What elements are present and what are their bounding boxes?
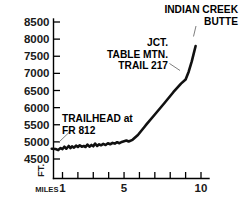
y-axis-unit-label: FT. — [35, 164, 46, 177]
annotation-trailhead-line-1: TRAILHEAD at — [62, 113, 133, 124]
y-tick-label-7000: 7000 — [24, 67, 50, 79]
x-axis-tick-labels: 1510 — [59, 182, 207, 194]
y-tick-label-6000: 6000 — [24, 102, 50, 114]
annotation-trailhead-line-2: FR 812 — [62, 125, 96, 136]
y-axis-tick-labels: 450050005500600065007000750080008500 — [24, 16, 50, 165]
y-tick-label-8000: 8000 — [24, 33, 50, 45]
x-axis-ticks — [63, 172, 202, 179]
annotation-junction: JCT.TABLE MTN.TRAIL 217 — [107, 37, 168, 71]
x-tick-label-1: 1 — [59, 182, 66, 194]
y-tick-label-8500: 8500 — [24, 16, 50, 28]
annotation-junction-line-3: TRAIL 217 — [118, 60, 168, 71]
annotation-summit: INDIAN CREEKBUTTE — [164, 4, 238, 27]
y-tick-label-5000: 5000 — [24, 136, 50, 148]
annotation-summit-line-2: BUTTE — [204, 16, 238, 27]
y-axis-ticks — [54, 22, 61, 159]
annotation-summit-line-1: INDIAN CREEK — [164, 4, 238, 15]
chart-annotations: INDIAN CREEKBUTTEJCT.TABLE MTN.TRAIL 217… — [62, 4, 239, 136]
x-axis-unit-label: MILES — [35, 185, 58, 194]
y-tick-label-5500: 5500 — [24, 119, 50, 131]
y-tick-label-6500: 6500 — [24, 85, 50, 97]
x-tick-label-10: 10 — [195, 182, 208, 194]
leader-line-summit — [194, 26, 197, 37]
y-tick-label-4500: 4500 — [24, 153, 50, 165]
annotation-trailhead: TRAILHEAD atFR 812 — [62, 113, 133, 136]
leader-line-junction — [170, 64, 181, 71]
axis-lines — [54, 19, 210, 179]
annotation-junction-line-1: JCT. — [147, 37, 168, 48]
elevation-profile-chart: 450050005500600065007000750080008500 151… — [0, 0, 245, 206]
y-tick-label-7500: 7500 — [24, 50, 50, 62]
annotation-junction-line-2: TABLE MTN. — [107, 49, 168, 60]
chart-canvas: 450050005500600065007000750080008500 151… — [0, 0, 245, 206]
x-tick-label-5: 5 — [121, 182, 128, 194]
